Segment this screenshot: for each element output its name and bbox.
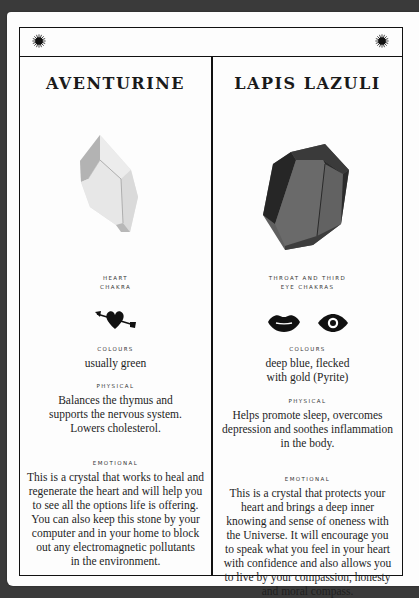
text-line: with gold (Pyrite) (220, 370, 395, 384)
colours-label: COLOURS (212, 346, 403, 352)
text-line: supports the nervous system. (28, 407, 203, 421)
text-line: This is a crystal that works to heal and (22, 470, 209, 484)
text-line: heart and brings a deep inner (214, 500, 401, 514)
physical-label: PHYSICAL (20, 383, 211, 389)
crystal-comparison-frame: AVENTURINE HEART CHAKRA COLOURS (19, 27, 403, 576)
chakra-icons (20, 308, 211, 330)
text-line: Lowers cholesterol. (28, 421, 203, 435)
text-line: with confidence and also allows you (214, 556, 401, 570)
crystal-title: LAPIS LAZULI (212, 74, 403, 93)
physical-label: PHYSICAL (212, 398, 403, 404)
lapis-lazuli-crystal-image (263, 142, 353, 250)
aventurine-crystal-image (76, 135, 146, 233)
text-line: to speak what you feel in your heart (214, 542, 401, 556)
text-line: usually green (28, 356, 203, 370)
chakra-line: EYE CHAKRAS (212, 283, 403, 292)
text-line: in the body. (214, 436, 401, 450)
sun-icon (375, 34, 389, 48)
text-line: deep blue, flecked (220, 356, 395, 370)
text-line: depression and soothes inflammation (214, 422, 401, 436)
text-line: to see all the options life is offering. (22, 498, 209, 512)
colours-label: COLOURS (20, 346, 211, 352)
chakra-label: THROAT AND THIRD EYE CHAKRAS (212, 274, 403, 292)
emotional-label: EMOTIONAL (212, 476, 403, 482)
crystal-column-aventurine: AVENTURINE HEART CHAKRA COLOURS (20, 56, 211, 575)
chakra-line: THROAT AND THIRD (212, 274, 403, 283)
header-row (20, 28, 402, 57)
chakra-line: HEART (20, 274, 211, 283)
crystal-column-lapis-lazuli: LAPIS LAZULI THROAT AND THIRD EYE CHAKRA… (212, 56, 403, 575)
text-line: and moral compass. (214, 584, 401, 598)
text-line: the Universe. It will encourage you (214, 528, 401, 542)
crystal-title: AVENTURINE (20, 74, 211, 93)
text-line: regenerate the heart and will help you (22, 484, 209, 498)
text-line: computer and in your home to block (22, 526, 209, 540)
colours-text: deep blue, flecked with gold (Pyrite) (220, 356, 395, 384)
eye-icon (317, 314, 349, 332)
text-line: out any electromagnetic pollutants (22, 540, 209, 554)
crescent-moon-icon (205, 34, 219, 48)
emotional-text: This is a crystal that protects your hea… (214, 486, 401, 598)
text-line: in the environment. (22, 554, 209, 568)
emotional-label: EMOTIONAL (20, 460, 211, 466)
emotional-text: This is a crystal that works to heal and… (22, 470, 209, 568)
text-line: Balances the thymus and (28, 393, 203, 407)
text-line: This is a crystal that protects your (214, 486, 401, 500)
physical-text: Balances the thymus and supports the ner… (28, 393, 203, 435)
heart-with-arrow-icon (94, 308, 138, 330)
text-line: knowing and sense of oneness with (214, 514, 401, 528)
text-line: You can also keep this stone by your (22, 512, 209, 526)
text-line: to live by your compassion, honesty (214, 570, 401, 584)
chakra-icons (212, 314, 403, 332)
chakra-label: HEART CHAKRA (20, 274, 211, 292)
sun-icon (32, 34, 46, 48)
text-line: Helps promote sleep, overcomes (214, 408, 401, 422)
colours-text: usually green (28, 356, 203, 370)
physical-text: Helps promote sleep, overcomes depressio… (214, 408, 401, 450)
chakra-line: CHAKRA (20, 283, 211, 292)
lips-icon (267, 314, 301, 332)
